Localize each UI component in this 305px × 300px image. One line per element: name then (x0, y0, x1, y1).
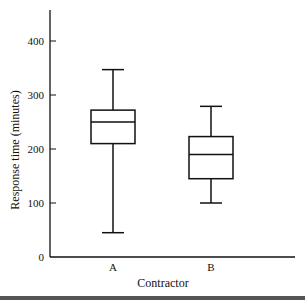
x-tick-label: B (207, 261, 214, 273)
frame-bottom-bar (0, 296, 305, 300)
box-plot: 0100200300400 AB Response time (minutes)… (0, 0, 305, 300)
iqr-box (91, 110, 135, 143)
boxes (91, 70, 233, 233)
x-axis: AB (50, 257, 295, 273)
y-axis: 0100200300400 (28, 10, 57, 263)
y-tick-label: 100 (28, 197, 45, 209)
y-tick-label: 200 (28, 143, 45, 155)
y-axis-label: Response time (minutes) (8, 90, 22, 209)
y-tick-label: 0 (39, 251, 45, 263)
x-tick-label: A (109, 261, 117, 273)
iqr-box (189, 137, 233, 179)
box-B (189, 106, 233, 203)
box-A (91, 70, 135, 233)
x-axis-label: Contractor (137, 276, 188, 290)
y-tick-label: 400 (28, 35, 45, 47)
y-tick-label: 300 (28, 89, 45, 101)
